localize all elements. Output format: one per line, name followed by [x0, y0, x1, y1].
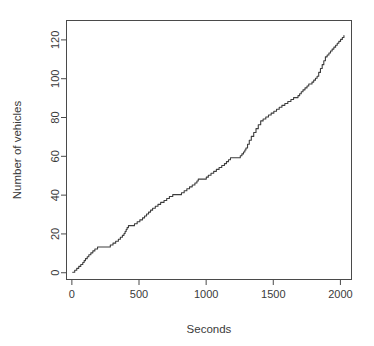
y-tick-label: 0 — [49, 270, 61, 276]
line-chart: 0500100015002000 020406080100120 Seconds… — [0, 0, 374, 346]
x-tick-label: 500 — [130, 288, 148, 300]
x-tick-label: 1000 — [194, 288, 218, 300]
y-tick-label: 100 — [49, 70, 61, 88]
x-tick-label: 2000 — [328, 288, 352, 300]
y-axis-title: Number of vehicles — [11, 101, 23, 200]
x-tick-label: 0 — [69, 288, 75, 300]
chart-figure: 0500100015002000 020406080100120 Seconds… — [0, 0, 374, 346]
y-tick-label: 60 — [49, 150, 61, 162]
y-tick-label: 20 — [49, 228, 61, 240]
chart-background — [0, 0, 374, 346]
y-tick-label: 80 — [49, 111, 61, 123]
y-tick-label: 120 — [49, 31, 61, 49]
x-tick-label: 1500 — [261, 288, 285, 300]
x-axis-title: Seconds — [187, 323, 232, 335]
y-tick-label: 40 — [49, 189, 61, 201]
